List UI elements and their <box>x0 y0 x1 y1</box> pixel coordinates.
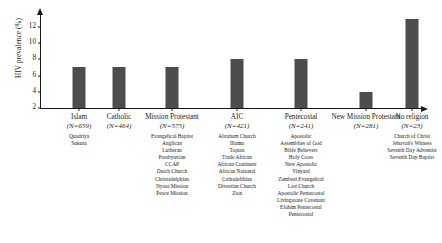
denomination-item: Apostolic <box>277 133 325 140</box>
category-label: Pentecostal(N=241) <box>285 113 318 131</box>
denomination-item: Bible Believers <box>277 147 325 154</box>
denomination-item: Topian <box>217 147 256 154</box>
denomination-item: African National <box>217 168 256 175</box>
category-sample-size: (N=575) <box>145 122 199 131</box>
denomination-item: Vinyard <box>277 168 325 175</box>
category-name: No religion <box>396 113 429 122</box>
denomination-item: African Continent <box>217 161 256 168</box>
category-name: Catholic <box>107 113 132 122</box>
denomination-item: Pentecostal <box>277 211 325 218</box>
denomination-item: Apostolic Pentecostal <box>277 190 325 197</box>
denomination-item: Abraham Church <box>217 133 256 140</box>
category-sample-size: (N=23) <box>396 122 429 131</box>
plot-area <box>41 14 422 108</box>
y-axis-tick-label: 6 <box>22 72 36 79</box>
denomination-item: Evangelical Baptist <box>151 133 193 140</box>
category-label: No religion(N=23) <box>396 113 429 131</box>
category-name: Mission Protestant <box>145 113 199 122</box>
bar <box>166 67 179 108</box>
category-label: Catholic(N=464) <box>107 113 132 131</box>
denomination-item: Trade African <box>217 154 256 161</box>
denomination-item: Assemblies of God <box>277 140 325 147</box>
denomination-item: Church of Christ <box>387 133 437 140</box>
denomination-item: Lutheran <box>151 147 193 154</box>
denomination-item: Elohim Pentecostal <box>277 204 325 211</box>
denomination-item: Peace Mission <box>151 190 193 197</box>
category-name: New Mission Protestant <box>331 113 400 122</box>
x-axis-tick-mark <box>412 108 413 111</box>
x-axis-tick-mark <box>301 108 302 111</box>
denomination-item: Cathadelthian <box>217 176 256 183</box>
x-axis-tick-mark <box>119 108 120 111</box>
y-axis-tick-label: 8 <box>22 56 36 63</box>
denomination-item: Quadriya <box>69 133 89 140</box>
denomination-item: Jehovah's Witness <box>387 140 437 147</box>
category-name: AIC <box>225 113 250 122</box>
x-axis-tick-mark <box>366 108 367 111</box>
denomination-item: Livingstone Covenant <box>277 197 325 204</box>
category-sample-size: (N=281) <box>331 122 400 131</box>
denomination-item: Illamu <box>217 140 256 147</box>
denomination-list: Church of ChristJehovah's WitnessSeventh… <box>387 133 437 161</box>
x-axis-tick-mark <box>79 108 80 111</box>
y-axis-tick-label: 4 <box>22 88 36 95</box>
bar <box>295 59 308 108</box>
denomination-item: Christadelphian <box>151 176 193 183</box>
y-axis-tick-group: 24681012 <box>22 14 40 108</box>
denomination-item: New Apostolic <box>277 161 325 168</box>
hiv-prevalence-bar-chart: HIV prevalence (%) 24681012 Islam(N=659)… <box>0 0 442 243</box>
denomination-item: CCAP <box>151 161 193 168</box>
bar <box>360 92 373 108</box>
category-label: Islam(N=659) <box>67 113 92 131</box>
denomination-item: Zion <box>217 190 256 197</box>
bar <box>406 19 419 108</box>
x-axis-tick-mark <box>172 108 173 111</box>
category-label: AIC(N=421) <box>225 113 250 131</box>
category-label: Mission Protestant(N=575) <box>145 113 199 131</box>
denomination-list: QuadriyaSukutu <box>69 133 89 147</box>
category-sample-size: (N=421) <box>225 122 250 131</box>
denomination-item: Seventh Day Adventist <box>387 147 437 154</box>
category-label: New Mission Protestant(N=281) <box>331 113 400 131</box>
category-sample-size: (N=241) <box>285 122 318 131</box>
category-name: Islam <box>67 113 92 122</box>
denomination-item: Divestian Church <box>217 183 256 190</box>
category-sample-size: (N=464) <box>107 122 132 131</box>
bar <box>113 67 126 108</box>
denomination-item: Anglican <box>151 140 193 147</box>
y-axis-tick-label: 2 <box>22 104 36 111</box>
denomination-item: Holy Cross <box>277 154 325 161</box>
denomination-list: ApostolicAssemblies of GodBible Believer… <box>277 133 325 218</box>
bar <box>231 59 244 108</box>
y-axis-tick-label: 12 <box>22 23 36 30</box>
denomination-item: Dutch Church <box>151 168 193 175</box>
denomination-item: Seventh Day Baptist <box>387 154 437 161</box>
denomination-list: Evangelical BaptistAnglicanLutheranPresb… <box>151 133 193 197</box>
denomination-item: Last Church <box>277 183 325 190</box>
y-axis-tick-label: 10 <box>22 40 36 47</box>
category-name: Pentecostal <box>285 113 318 122</box>
denomination-item: Presbyterian <box>151 154 193 161</box>
x-axis-arrowhead <box>421 106 428 112</box>
bar <box>73 67 86 108</box>
denomination-item: Sukutu <box>69 140 89 147</box>
x-axis-tick-mark <box>237 108 238 111</box>
category-sample-size: (N=659) <box>67 122 92 131</box>
denomination-item: Nyasa Mission <box>151 183 193 190</box>
denomination-item: Zambezi Evangelical <box>277 176 325 183</box>
denomination-list: Abraham ChurchIllamuTopianTrade AfricanA… <box>217 133 256 197</box>
